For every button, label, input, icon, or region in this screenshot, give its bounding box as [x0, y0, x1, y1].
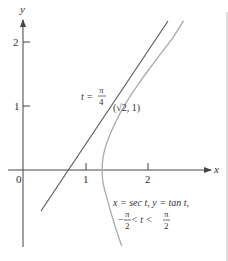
pi-numerator: π — [99, 85, 104, 95]
origin-label: 0 — [16, 173, 22, 185]
tangent-parameter-label: t = π 4 — [81, 85, 106, 107]
x-tick-label-2: 2 — [145, 173, 151, 185]
equation-pi-right: π — [164, 209, 169, 219]
four-denominator: 4 — [99, 97, 104, 107]
t-equals-label: t = — [81, 91, 93, 102]
equation-inequality: < t < — [131, 214, 152, 225]
curve-equation: x = sec t, y = tan t, − π 2 < t < π 2 — [112, 197, 189, 231]
x-tick-label-1: 1 — [83, 173, 89, 185]
equation-pi-left: π — [125, 209, 130, 219]
equation-minus: − — [118, 214, 124, 225]
x-axis: x 0 1 2 — [8, 163, 219, 185]
figure-canvas: y 2 1 x 0 1 2 t = π 4 (√2, 1) — [0, 0, 228, 261]
hyperbola-curve — [102, 21, 184, 246]
tangent-point-label: (√2, 1) — [113, 102, 140, 114]
y-axis: y 2 1 — [13, 3, 30, 247]
y-axis-label: y — [19, 3, 25, 15]
equation-two-right: 2 — [164, 221, 169, 231]
y-tick-label-2: 2 — [13, 36, 19, 48]
x-axis-label: x — [213, 163, 219, 175]
equation-line-1: x = sec t, y = tan t, — [112, 197, 189, 208]
y-tick-label-1: 1 — [14, 100, 20, 112]
equation-two-left: 2 — [125, 221, 130, 231]
hyperbola-tangent-figure: y 2 1 x 0 1 2 t = π 4 (√2, 1) — [0, 0, 228, 261]
